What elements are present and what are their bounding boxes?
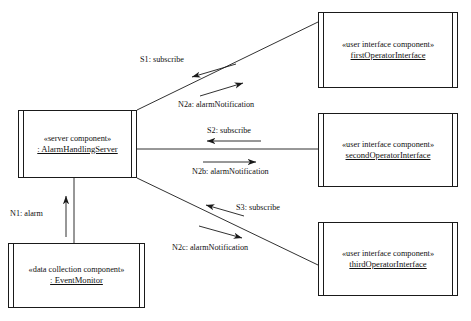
message-label-s3-subscribe: S3: subscribe <box>236 203 280 212</box>
message-label-n2a-alarm-notification: N2a: alarmNotification <box>178 100 254 109</box>
arrow-n2a-alarm-notification <box>200 83 243 96</box>
component-stereotype: «server component» <box>44 134 112 144</box>
component-instance-name: : EventMonitor <box>50 275 103 285</box>
component-stereotype: «user interface component» <box>342 40 434 50</box>
component-alarm-handling-server[interactable]: «server component» : AlarmHandlingServer <box>18 110 137 178</box>
link-server-first-operator <box>137 22 318 110</box>
component-first-operator-interface[interactable]: «user interface component» firstOperator… <box>318 12 458 88</box>
message-label-n2b-alarm-notification: N2b: alarmNotification <box>192 167 269 176</box>
component-instance-name: firstOperatorInterface <box>351 50 426 60</box>
arrow-s1-subscribe <box>192 64 236 77</box>
component-event-monitor[interactable]: «data collection component» : EventMonit… <box>8 243 145 308</box>
uml-communication-diagram: «server component» : AlarmHandlingServer… <box>0 0 471 321</box>
component-stereotype: «user interface component» <box>342 140 434 150</box>
message-label-n1-alarm: N1: alarm <box>10 209 43 218</box>
component-third-operator-interface[interactable]: «user interface component» thirdOperator… <box>318 222 458 296</box>
message-label-s2-subscribe: S2: subscribe <box>207 126 251 135</box>
component-stereotype: «user interface component» <box>342 249 434 259</box>
component-stereotype: «data collection component» <box>29 265 125 275</box>
message-label-n2c-alarm-notification: N2c: alarmNotification <box>172 243 248 252</box>
message-label-s1-subscribe: S1: subscribe <box>140 55 184 64</box>
component-second-operator-interface[interactable]: «user interface component» secondOperato… <box>318 113 458 187</box>
component-instance-name: : AlarmHandlingServer <box>37 144 117 154</box>
component-instance-name: secondOperatorInterface <box>346 150 431 160</box>
arrow-n2c-alarm-notification <box>199 226 242 238</box>
component-instance-name: thirdOperatorInterface <box>349 259 426 269</box>
